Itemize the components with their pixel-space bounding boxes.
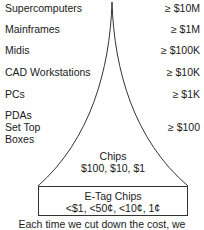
tier-pdas-price: ≥ $100: [168, 121, 200, 133]
etag-title: E-Tag Chips: [39, 190, 187, 202]
tier-pcs-price: ≥ $1K: [173, 88, 200, 100]
caption-line-1: Each time we cut down the cost, we: [0, 218, 204, 230]
tier-mainframes-label: Mainframes: [5, 23, 60, 35]
tier-supercomputers-label: Supercomputers: [5, 2, 82, 14]
tier-mainframes-price: ≥ $1M: [171, 23, 200, 35]
tier-supercomputers-price: ≥ $10M: [165, 2, 200, 14]
etag-box: E-Tag Chips <$1, <50¢, <10¢, 1¢: [38, 186, 188, 216]
tier-midis-label: Midis: [5, 44, 30, 56]
tier-pdas-label-line3: Boxes: [5, 133, 34, 145]
tier-pdas-label-line1: PDAs: [5, 109, 32, 121]
tier-pcs-label: PCs: [5, 88, 25, 100]
tier-midis-price: ≥ $100K: [161, 44, 200, 56]
tier-cad-label: CAD Workstations: [5, 66, 91, 78]
caption: Each time we cut down the cost, we incre…: [0, 218, 204, 230]
chips-prices: $100, $10, $1: [60, 162, 166, 174]
tier-cad-price: ≥ $10K: [167, 66, 200, 78]
tier-pdas-label-line2: Set Top: [5, 121, 40, 133]
etag-prices: <$1, <50¢, <10¢, 1¢: [39, 202, 187, 214]
chips-title: Chips: [60, 150, 166, 162]
